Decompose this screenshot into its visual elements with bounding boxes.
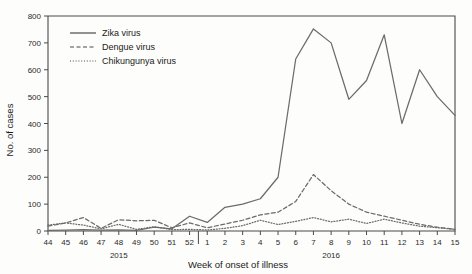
y-tick-label: 600 (28, 66, 42, 75)
x-tick-label: 46 (79, 238, 88, 247)
y-tick-label: 300 (28, 146, 42, 155)
x-tick-label: 14 (433, 238, 442, 247)
x-tick-label: 11 (380, 238, 389, 247)
x-tick-label: 1 (205, 238, 210, 247)
x-tick-label: 7 (311, 238, 316, 247)
x-tick-label: 12 (397, 238, 406, 247)
x-tick-label: 50 (150, 238, 159, 247)
x-tick-label: 13 (415, 238, 424, 247)
x-tick-label: 15 (451, 238, 460, 247)
x-tick-label: 2 (223, 238, 228, 247)
y-tick-label: 800 (28, 12, 42, 21)
y-axis-ticks: 0100200300400500600700800 (28, 12, 48, 236)
y-tick-label: 400 (28, 120, 42, 129)
legend-label: Dengue virus (102, 42, 156, 52)
y-tick-label: 700 (28, 39, 42, 48)
epidemic-curve-chart: 0100200300400500600700800 44454647484950… (0, 0, 472, 274)
x-tick-label: 44 (44, 238, 53, 247)
x-tick-label: 10 (362, 238, 371, 247)
x-tick-label: 48 (114, 238, 123, 247)
chart-figure: 0100200300400500600700800 44454647484950… (0, 0, 472, 274)
y-axis-title: No. of cases (4, 103, 15, 156)
x-axis-year-label: 2016 (322, 251, 340, 260)
x-tick-label: 49 (132, 238, 141, 247)
x-tick-label: 5 (276, 238, 281, 247)
x-tick-label: 4 (258, 238, 263, 247)
x-axis-year-label: 2015 (110, 251, 128, 260)
x-axis-ticks: 444546474849505152123456789101112131415 (44, 231, 460, 247)
y-tick-label: 0 (37, 227, 42, 236)
x-tick-label: 6 (294, 238, 299, 247)
x-tick-label: 47 (97, 238, 106, 247)
x-tick-label: 51 (167, 238, 176, 247)
x-tick-label: 8 (329, 238, 334, 247)
x-tick-label: 52 (185, 238, 194, 247)
legend-label: Chikungunya virus (102, 56, 177, 66)
x-axis-title: Week of onset of illness (188, 259, 288, 270)
y-tick-label: 500 (28, 93, 42, 102)
x-tick-label: 9 (347, 238, 352, 247)
x-tick-label: 3 (240, 238, 245, 247)
x-tick-label: 45 (61, 238, 70, 247)
chart-legend: Zika virusDengue virusChikungunya virus (70, 28, 177, 66)
y-tick-label: 200 (28, 173, 42, 182)
series-line-chikungunya-virus (48, 218, 455, 230)
legend-label: Zika virus (102, 28, 141, 38)
y-tick-label: 100 (28, 200, 42, 209)
